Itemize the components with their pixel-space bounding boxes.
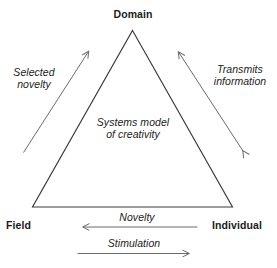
flow-label-selected-novelty-line-1: Selected: [1, 66, 67, 78]
flow-label-transmits-information-line-2: information: [206, 75, 274, 87]
vertex-label-domain: Domain: [113, 8, 152, 20]
flow-label-transmits-information: Transmits information: [206, 63, 274, 88]
vertex-label-field: Field: [6, 219, 31, 231]
flow-label-stimulation: Stimulation: [108, 237, 161, 249]
flow-label-novelty: Novelty: [119, 211, 154, 223]
systems-model-of-creativity-diagram: Domain Field Individual Systems model of…: [0, 0, 277, 268]
flow-label-selected-novelty: Selected novelty: [1, 66, 67, 91]
center-caption: Systems model of creativity: [63, 116, 203, 141]
vertex-label-individual: Individual: [212, 219, 262, 231]
flow-label-selected-novelty-line-2: novelty: [1, 78, 67, 90]
center-caption-line-2: of creativity: [63, 128, 203, 140]
flow-label-transmits-information-line-1: Transmits: [206, 63, 274, 75]
center-caption-line-1: Systems model: [63, 116, 203, 128]
